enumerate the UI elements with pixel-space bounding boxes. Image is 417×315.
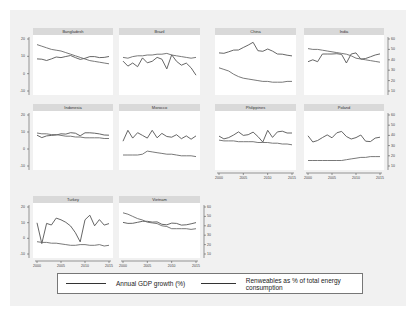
- legend-label-gdp: Annual GDP growth (%): [116, 280, 185, 287]
- svg-text:10: 10: [391, 164, 395, 168]
- svg-text:2015: 2015: [376, 176, 384, 180]
- svg-text:20: 20: [391, 79, 395, 83]
- legend-label-renewables: Renweables as % of total energy consumpt…: [246, 277, 362, 291]
- svg-text:2000: 2000: [215, 176, 223, 180]
- svg-text:-10: -10: [20, 89, 25, 93]
- svg-text:40: 40: [207, 224, 211, 228]
- svg-text:2010: 2010: [264, 176, 272, 180]
- svg-text:-10: -10: [20, 164, 25, 168]
- svg-text:2015: 2015: [105, 264, 113, 268]
- svg-text:60: 60: [207, 205, 211, 209]
- svg-text:10: 10: [391, 89, 395, 93]
- svg-text:10: 10: [207, 252, 211, 256]
- svg-text:30: 30: [391, 144, 395, 148]
- svg-text:20: 20: [21, 205, 25, 209]
- svg-text:2005: 2005: [57, 264, 65, 268]
- svg-text:2005: 2005: [239, 176, 247, 180]
- svg-text:2000: 2000: [304, 176, 312, 180]
- svg-text:20: 20: [21, 37, 25, 41]
- svg-text:30: 30: [391, 68, 395, 72]
- svg-text:2005: 2005: [143, 264, 151, 268]
- svg-text:2010: 2010: [352, 176, 360, 180]
- svg-text:2010: 2010: [81, 264, 89, 268]
- legend-line-renewables: [201, 283, 236, 284]
- svg-text:20: 20: [391, 154, 395, 158]
- svg-text:-10: -10: [20, 252, 25, 256]
- svg-text:50: 50: [207, 214, 211, 218]
- svg-text:2015: 2015: [288, 176, 296, 180]
- svg-text:2010: 2010: [168, 264, 176, 268]
- svg-text:2000: 2000: [33, 264, 41, 268]
- svg-text:50: 50: [391, 47, 395, 51]
- svg-text:20: 20: [207, 243, 211, 247]
- legend-item-gdp: Annual GDP growth (%): [66, 274, 185, 293]
- svg-text:50: 50: [391, 123, 395, 127]
- svg-text:30: 30: [207, 233, 211, 237]
- svg-text:0: 0: [23, 147, 25, 151]
- legend-line-gdp: [66, 283, 106, 284]
- svg-text:60: 60: [391, 113, 395, 117]
- svg-text:2000: 2000: [119, 264, 127, 268]
- legend: Annual GDP growth (%) Renweables as % of…: [57, 273, 363, 294]
- svg-text:60: 60: [391, 37, 395, 41]
- svg-text:2005: 2005: [328, 176, 336, 180]
- svg-text:10: 10: [21, 221, 25, 225]
- svg-text:40: 40: [391, 133, 395, 137]
- svg-text:0: 0: [23, 236, 25, 240]
- svg-text:10: 10: [21, 54, 25, 58]
- svg-text:10: 10: [21, 130, 25, 134]
- svg-text:2015: 2015: [192, 264, 200, 268]
- svg-text:20: 20: [21, 113, 25, 117]
- svg-text:0: 0: [23, 72, 25, 76]
- legend-item-renewables: Renweables as % of total energy consumpt…: [201, 274, 362, 293]
- svg-text:40: 40: [391, 58, 395, 62]
- chart-lines: 20100-1020100-1020100-106050403020106050…: [0, 0, 417, 315]
